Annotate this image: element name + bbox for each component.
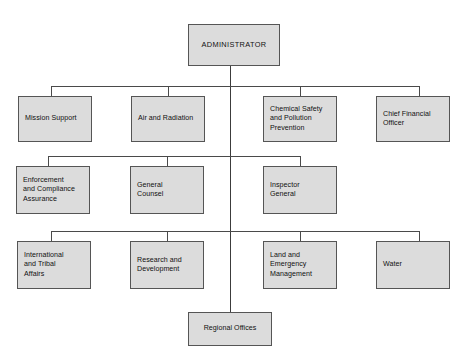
- node-inspector-general-label: Inspector General: [270, 181, 332, 200]
- connector-trunk-main: [230, 66, 231, 312]
- node-research-and-development[interactable]: Research and Development: [130, 241, 204, 289]
- node-regional-offices[interactable]: Regional Offices: [188, 312, 272, 346]
- connector-stub-row1-2: [168, 86, 169, 96]
- node-chemical-safety-and-pollution-prevention-label: Chemical Safety and Pollution Prevention: [270, 105, 332, 133]
- node-enforcement-and-compliance-assurance[interactable]: Enforcement and Compliance Assurance: [16, 166, 90, 214]
- connector-stub-row2-3: [300, 156, 301, 166]
- node-chemical-safety-and-pollution-prevention[interactable]: Chemical Safety and Pollution Prevention: [263, 96, 337, 142]
- connector-bus-row1: [51, 86, 419, 87]
- connector-stub-row1-1: [51, 86, 52, 96]
- node-administrator-label: ADMINISTRATOR: [192, 40, 276, 49]
- node-mission-support[interactable]: Mission Support: [18, 96, 92, 142]
- node-water-label: Water: [383, 260, 445, 269]
- connector-stub-row2-2: [167, 156, 168, 166]
- node-water[interactable]: Water: [376, 241, 450, 289]
- node-land-and-emergency-management[interactable]: Land and Emergency Management: [263, 241, 337, 289]
- node-international-and-tribal-affairs-label: International and Tribal Affairs: [24, 251, 86, 279]
- connector-bus-row3: [51, 231, 419, 232]
- node-mission-support-label: Mission Support: [25, 114, 87, 123]
- node-administrator[interactable]: ADMINISTRATOR: [188, 24, 280, 66]
- org-chart: ADMINISTRATOR Mission Support Air and Ra…: [0, 0, 467, 362]
- node-regional-offices-label: Regional Offices: [192, 324, 268, 333]
- connector-stub-row3-2: [167, 231, 168, 241]
- node-general-counsel[interactable]: General Counsel: [130, 166, 204, 214]
- connector-stub-row3-4: [419, 231, 420, 241]
- node-chief-financial-officer[interactable]: Chief Financial Officer: [376, 96, 450, 142]
- node-chief-financial-officer-label: Chief Financial Officer: [383, 110, 445, 129]
- node-air-and-radiation[interactable]: Air and Radiation: [131, 96, 205, 142]
- node-inspector-general[interactable]: Inspector General: [263, 166, 337, 214]
- connector-stub-row1-3: [300, 86, 301, 96]
- node-general-counsel-label: General Counsel: [137, 181, 199, 200]
- node-enforcement-and-compliance-assurance-label: Enforcement and Compliance Assurance: [23, 176, 85, 204]
- node-international-and-tribal-affairs[interactable]: International and Tribal Affairs: [17, 241, 91, 289]
- connector-stub-row2-1: [48, 156, 49, 166]
- connector-stub-row1-4: [419, 86, 420, 96]
- node-research-and-development-label: Research and Development: [137, 256, 199, 275]
- connector-stub-row3-1: [51, 231, 52, 241]
- node-land-and-emergency-management-label: Land and Emergency Management: [270, 251, 332, 279]
- connector-stub-row3-3: [300, 231, 301, 241]
- node-air-and-radiation-label: Air and Radiation: [138, 114, 200, 123]
- connector-bus-row2: [48, 156, 300, 157]
